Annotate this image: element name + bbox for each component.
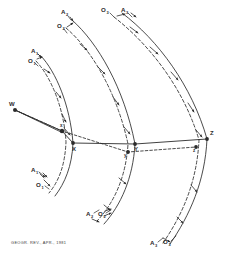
front-label-O2-bottom-index: 2 bbox=[103, 214, 105, 219]
node-label-W: W bbox=[9, 101, 15, 107]
front-label-O2-top-index: 2 bbox=[62, 26, 64, 31]
node-label-Z: Z bbox=[210, 130, 214, 136]
axis-connector-w bbox=[15, 110, 61, 132]
figure-caption: GEOGR. REV., APR., 1981 bbox=[11, 240, 66, 245]
front-label-A1-bottom: A1 bbox=[31, 167, 39, 175]
front-label-O2-bottom: O2 bbox=[98, 211, 106, 219]
front-label-O3-bottom: O3 bbox=[163, 239, 171, 247]
arrow-3-h bbox=[177, 217, 183, 223]
arrow-1-d bbox=[62, 114, 66, 122]
front-label-A1-top-index: 1 bbox=[36, 51, 38, 56]
front-label-A2-bottom-index: 2 bbox=[91, 214, 93, 219]
front-label-O1-bottom-index: 1 bbox=[41, 185, 43, 190]
front-label-O1-top-index: 1 bbox=[33, 61, 35, 66]
front-label-A1-bottom-index: 1 bbox=[36, 170, 38, 175]
node-label-x-lower: x bbox=[60, 124, 63, 129]
arrow-1-b bbox=[44, 69, 50, 73]
front-label-A2-top: A2 bbox=[61, 9, 69, 17]
node-dot-Z bbox=[205, 137, 209, 141]
node-label-y-lower: y bbox=[124, 154, 127, 159]
tick-arrow-a1-bot bbox=[43, 173, 47, 177]
axis-line-dashed bbox=[15, 110, 196, 152]
node-dot-W bbox=[13, 108, 17, 112]
front-label-O3-top: O3 bbox=[101, 7, 109, 15]
front-label-A3-top: A3 bbox=[121, 7, 129, 15]
front-label-A1-bottom-letter: A bbox=[31, 166, 36, 173]
node-label-z-lower: z bbox=[193, 149, 195, 154]
front-label-A3-bottom: A3 bbox=[150, 240, 158, 248]
front-label-A2-top-letter: A bbox=[61, 8, 66, 15]
arrow-2-b bbox=[80, 44, 87, 50]
node-label-X: X bbox=[72, 146, 76, 152]
stem-o1-bot bbox=[45, 186, 49, 189]
front-label-A1-top: A1 bbox=[31, 48, 39, 56]
front-label-A2-bottom-letter: A bbox=[86, 210, 91, 217]
arrow-3-g bbox=[191, 185, 197, 192]
front-label-A1-top-letter: A bbox=[31, 47, 36, 54]
arrow-1-c bbox=[56, 92, 61, 98]
arrow-3-e bbox=[188, 103, 194, 112]
diagram-svg bbox=[0, 0, 227, 256]
arrow-1-f bbox=[44, 180, 50, 186]
front-label-O2-top: O2 bbox=[57, 23, 65, 31]
node-label-Y: Y bbox=[134, 146, 138, 152]
arrow-3-f bbox=[196, 130, 202, 137]
stem-o3-bot bbox=[171, 236, 176, 241]
front-label-O3-top-index: 3 bbox=[106, 10, 108, 15]
node-dot-X bbox=[71, 141, 75, 145]
front-label-O1-top: O1 bbox=[28, 58, 36, 66]
axis-line-main bbox=[15, 110, 207, 144]
arc-2-solid bbox=[72, 20, 135, 224]
front-label-A2-bottom: A2 bbox=[86, 211, 94, 219]
arrow-2-a bbox=[67, 23, 73, 27]
front-label-A3-top-index: 3 bbox=[126, 10, 128, 15]
front-label-A3-bottom-letter: A bbox=[150, 239, 155, 246]
front-label-A3-top-letter: A bbox=[121, 6, 126, 13]
arc-2-dashed bbox=[66, 28, 128, 221]
stem-o3-top bbox=[110, 13, 114, 17]
figure-canvas: W X Y Z x y z A1 O1 A2 O2 O3 A3 A1 O1 A2… bbox=[0, 0, 227, 256]
arc-3-solid bbox=[122, 13, 207, 244]
arc-1-solid bbox=[41, 56, 73, 196]
node-dot-x bbox=[60, 129, 64, 133]
front-label-O3-bottom-index: 3 bbox=[168, 242, 170, 247]
front-label-O1-bottom: O1 bbox=[36, 182, 44, 190]
front-label-A2-top-index: 2 bbox=[66, 12, 68, 17]
front-label-A3-bottom-index: 3 bbox=[155, 243, 157, 248]
